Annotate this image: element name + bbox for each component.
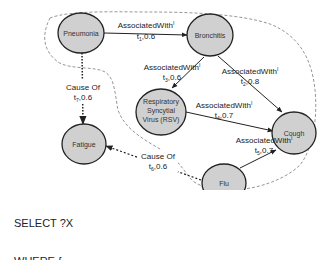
- edge-label-t3: AssociatedWithI t3,0.6: [144, 62, 201, 83]
- svg-text:AssociatedWithI: AssociatedWithI: [222, 66, 279, 76]
- svg-text:Flu: Flu: [219, 180, 229, 187]
- svg-text:Virus (RSV): Virus (RSV): [143, 116, 180, 124]
- node-flu: Flu: [202, 164, 246, 190]
- svg-text:Cause Of: Cause Of: [66, 83, 101, 92]
- svg-text:t4,0.7: t4,0.7: [215, 111, 234, 121]
- svg-text:Cause Of: Cause Of: [141, 152, 176, 161]
- svg-text:AssociatedWithI: AssociatedWithI: [236, 135, 293, 145]
- svg-text:AssociatedWithI: AssociatedWithI: [144, 62, 201, 72]
- node-fatigue: Fatigue: [62, 124, 106, 164]
- edge-label-t1: AssociatedWithI t1,0.6: [118, 20, 175, 42]
- svg-text:t5,0.7: t5,0.7: [255, 146, 274, 156]
- knowledge-graph: Pneumonia Bronchitis Respiratory Syncyti…: [0, 0, 323, 190]
- svg-text:Fatigue: Fatigue: [72, 141, 95, 149]
- svg-text:Respiratory: Respiratory: [143, 98, 179, 106]
- svg-text:Bronchitis: Bronchitis: [195, 32, 226, 39]
- sparql-query: SELECT ?X WHERE { ?X CauseOf Fatigue (q1…: [14, 192, 187, 260]
- svg-text:AssociatedWithI: AssociatedWithI: [118, 20, 175, 30]
- node-cough: Cough: [272, 112, 316, 154]
- edge-label-t7: Cause Of t7,0.6: [62, 80, 106, 104]
- query-select: SELECT ?X: [14, 217, 187, 230]
- query-where: WHERE {: [14, 255, 187, 260]
- node-pneumonia: Pneumonia: [58, 13, 104, 53]
- svg-text:Pneumonia: Pneumonia: [63, 30, 99, 37]
- edge-label-t2: AssociatedWithI t2,0.8: [222, 66, 279, 87]
- svg-text:AssociatedWithI: AssociatedWithI: [196, 100, 253, 110]
- node-rsv: Respiratory Syncytial Virus (RSV): [136, 89, 186, 135]
- svg-text:t3,0.6: t3,0.6: [163, 73, 182, 83]
- svg-text:Syncytial: Syncytial: [147, 107, 175, 115]
- node-bronchitis: Bronchitis: [187, 14, 233, 56]
- edge-label-t4: AssociatedWithI t4,0.7: [196, 100, 253, 121]
- edge-label-t6: Cause Of t6,0.6: [138, 150, 178, 172]
